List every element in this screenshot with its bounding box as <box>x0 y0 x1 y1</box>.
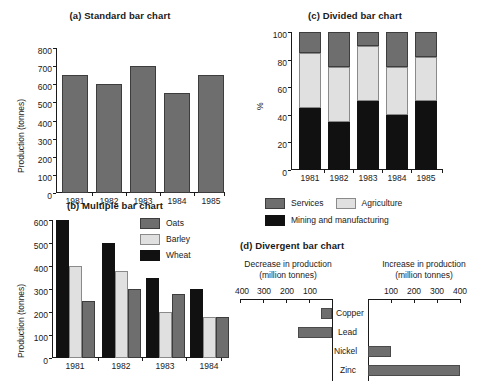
panel-d-left-header-line1: Decrease in production <box>240 259 336 270</box>
stack-1984-services <box>386 32 408 67</box>
stack-1983-mining <box>357 101 379 170</box>
panel-b-y-axis <box>52 220 53 358</box>
legend-label-services: Services <box>291 199 324 208</box>
dvbar-nickel <box>368 346 391 357</box>
panel-c-y-axis-label: % <box>255 102 265 110</box>
panel-c-xlabel-1985: 1985 <box>417 174 436 183</box>
legend-label-mining: Mining and manufacturing <box>291 216 389 225</box>
panel-d-right-tick-100: 100 <box>384 287 398 296</box>
panel-c-xlabel-1982: 1982 <box>330 174 349 183</box>
panel-d-right-header: Increase in production (million tonnes) <box>366 259 482 280</box>
legend-swatch-wheat <box>140 250 160 261</box>
panel-a-ytick-700: 700 <box>38 65 56 74</box>
panel-d-left-tick-300: 300 <box>257 287 271 296</box>
panel-a-ytick-100: 100 <box>38 174 56 183</box>
stack-1981-services <box>299 32 321 53</box>
bar-1983-wheat <box>146 278 159 359</box>
panel-d-title: (d) Divergent bar chart <box>240 240 400 251</box>
stack-1984-mining <box>386 115 408 170</box>
dvlabel-zinc: Zinc <box>340 366 356 375</box>
panel-c-title: (c) Divided bar chart <box>245 10 465 21</box>
panel-a-ytick-800: 800 <box>38 47 56 56</box>
panel-a-y-axis <box>56 48 57 193</box>
legend-swatch-agriculture <box>336 198 356 209</box>
panel-divided-bar-chart: (c) Divided bar chart % 0 20 40 60 80 10… <box>245 10 482 235</box>
stack-1985-mining <box>415 101 437 170</box>
panel-c-ytick-100: 100 <box>273 31 291 40</box>
bar-1981-oats <box>82 301 95 359</box>
dvlabel-nickel: Nickel <box>334 347 357 356</box>
bar-1984-barley <box>203 317 216 358</box>
panel-b-title: (b) Multiple bar chart <box>0 200 230 211</box>
legend-swatch-oats <box>140 218 160 229</box>
panel-b-ytick-200: 200 <box>34 311 52 320</box>
legend-item-barley: Barley <box>140 234 191 245</box>
panel-c-xlabel-1984: 1984 <box>388 174 407 183</box>
dvbar-zinc <box>368 365 460 376</box>
stack-1985-agri <box>415 57 437 101</box>
bar-1983-barley <box>159 312 172 358</box>
panel-b-xlabel-1982: 1982 <box>112 362 131 371</box>
panel-d-right-tick-400: 400 <box>453 287 467 296</box>
panel-b-xlabel-1983: 1983 <box>156 362 175 371</box>
panel-a-ytick-300: 300 <box>38 138 56 147</box>
panel-a-ytick-200: 200 <box>38 156 56 165</box>
legend-swatch-services <box>265 198 285 209</box>
panel-multiple-bar-chart: (b) Multiple bar chart Production (tonne… <box>0 200 245 391</box>
panel-d-left-tick-400: 400 <box>235 287 249 296</box>
panel-b-ytick-500: 500 <box>34 242 52 251</box>
legend-item-oats: Oats <box>140 218 191 229</box>
panel-c-xlabel-1981: 1981 <box>301 174 320 183</box>
stack-1982-mining <box>328 122 350 170</box>
panel-c-ytick-80: 80 <box>278 59 291 68</box>
panel-d-left-tick-100: 100 <box>303 287 317 296</box>
bar-1982-oats <box>128 289 141 358</box>
bar-1984-oats <box>216 317 229 358</box>
panel-d-left-tick-200: 200 <box>280 287 294 296</box>
panel-a-y-axis-label: Production (tonnes) <box>16 99 26 173</box>
panel-b-legend: Oats Barley Wheat <box>140 218 191 266</box>
panel-c-ytick-0: 0 <box>282 169 291 178</box>
bar-1983-oats <box>172 294 185 358</box>
stack-1981-agri <box>299 53 321 108</box>
panel-b-y-axis-label: Production (tonnes) <box>16 284 26 358</box>
stack-1983-services <box>357 32 379 46</box>
stack-1981-mining <box>299 108 321 170</box>
bar-1983 <box>130 66 156 193</box>
legend-item-agriculture: Agriculture <box>336 198 403 209</box>
panel-standard-bar-chart: (a) Standard bar chart Production (tonne… <box>0 10 240 195</box>
panel-b-ytick-600: 600 <box>34 219 52 228</box>
panel-c-ytick-20: 20 <box>278 142 291 151</box>
bar-1984 <box>164 93 190 193</box>
panel-d-right-tick-300: 300 <box>430 287 444 296</box>
dvlabel-lead: Lead <box>338 328 357 337</box>
legend-label-agriculture: Agriculture <box>362 199 403 208</box>
dvbar-lead <box>298 327 333 338</box>
panel-d-right-header-line1: Increase in production <box>366 259 482 270</box>
legend-item-mining: Mining and manufacturing <box>265 215 402 226</box>
stack-1982-services <box>328 32 350 67</box>
panel-a-plot-area: 0 100 200 300 400 500 600 700 800 1981 1… <box>56 48 225 193</box>
bar-1982-barley <box>115 271 128 358</box>
panel-a-ytick-400: 400 <box>38 120 56 129</box>
bar-1985 <box>198 75 224 193</box>
stack-1985-services <box>415 32 437 57</box>
panel-d-left-header-line2: (million tonnes) <box>240 270 336 281</box>
bar-1982-wheat <box>102 243 115 358</box>
dvlabel-copper: Copper <box>336 309 364 318</box>
legend-label-wheat: Wheat <box>166 251 191 260</box>
panel-d-right-tick-200: 200 <box>407 287 421 296</box>
panel-b-plot-area: 0 100 200 300 400 500 600 1981 1982 1983… <box>52 220 222 358</box>
panel-c-plot-area: 0 20 40 60 80 100 1981 1982 1983 198 <box>291 32 443 170</box>
bar-1984-wheat <box>190 289 203 358</box>
panel-b-ytick-0: 0 <box>43 357 52 366</box>
panel-a-title: (a) Standard bar chart <box>0 10 240 21</box>
dvbar-copper <box>321 308 333 319</box>
panel-d-left-header: Decrease in production (million tonnes) <box>240 259 336 280</box>
panel-a-ytick-500: 500 <box>38 102 56 111</box>
legend-swatch-mining <box>265 215 285 226</box>
legend-label-barley: Barley <box>166 235 190 244</box>
stack-1983-agri <box>357 46 379 101</box>
bar-1982 <box>96 84 122 193</box>
legend-item-services: Services <box>265 198 324 209</box>
